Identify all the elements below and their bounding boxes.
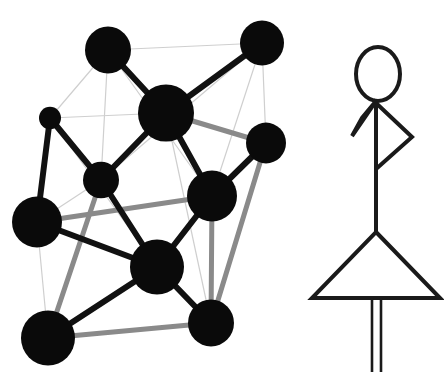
- graph-node-vertex-right-middle[interactable]: [187, 171, 237, 222]
- graph-node-vertex-upper-small-left[interactable]: [39, 107, 61, 129]
- graph-node-vertex-right-upper[interactable]: [246, 123, 286, 164]
- figure-canvas: Twelve filled black circular vertices co…: [0, 0, 444, 374]
- graph-node-vertex-top-right[interactable]: [240, 21, 284, 66]
- graph-node-vertex-bottom-right[interactable]: [188, 300, 234, 347]
- graph-node-vertex-top-left[interactable]: [85, 27, 131, 74]
- figure-svg: [0, 0, 444, 374]
- graph-node-vertex-center-lower[interactable]: [130, 239, 184, 294]
- graph-node-vertex-bottom-left[interactable]: [21, 310, 75, 365]
- graph-node-vertex-center-upper[interactable]: [138, 84, 194, 141]
- graph-node-vertex-center-small[interactable]: [83, 162, 119, 199]
- graph-node-vertex-left-middle[interactable]: [12, 197, 62, 248]
